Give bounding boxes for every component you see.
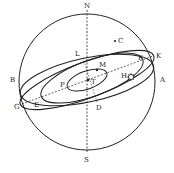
label-m: M [99, 61, 106, 69]
label-b: B [10, 76, 15, 84]
earth-point [87, 79, 90, 82]
label-t: T [91, 78, 96, 86]
label-p: P [60, 81, 65, 89]
celestial-sphere-diagram: N S A B C D E F G H K L M P T [0, 0, 174, 173]
label-a: A [159, 76, 166, 84]
sun-icon [127, 73, 135, 81]
label-k: K [156, 52, 162, 60]
label-g: G [14, 103, 20, 111]
label-n: N [84, 2, 90, 10]
label-e: E [34, 101, 39, 109]
label-h: H [121, 72, 127, 80]
label-s: S [84, 156, 89, 164]
label-l: L [75, 50, 80, 58]
label-c: C [118, 37, 123, 45]
star-dot [114, 40, 116, 42]
label-d: D [96, 104, 102, 112]
label-f: F [138, 54, 143, 62]
moon-point [96, 69, 98, 71]
